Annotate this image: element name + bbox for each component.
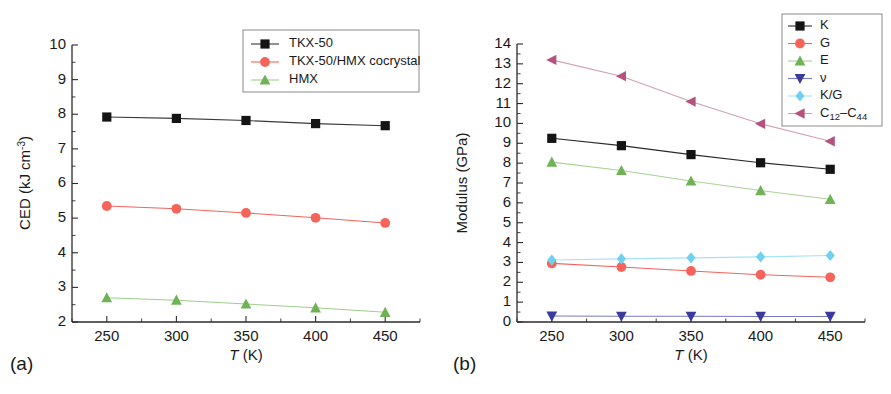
y-axis-title: Modulus (GPa) — [453, 133, 470, 234]
series- — [546, 311, 835, 322]
data-point — [380, 218, 390, 228]
data-point — [756, 270, 766, 280]
series-KG — [547, 250, 835, 266]
y-tick-label: 10 — [494, 113, 511, 130]
x-axis-title: T (K) — [229, 346, 262, 363]
y-tick-label: 7 — [58, 139, 66, 156]
y-tick-label: 3 — [58, 277, 66, 294]
data-point — [826, 165, 835, 174]
x-tick-label: 400 — [303, 327, 328, 344]
y-tick-label: 13 — [494, 54, 511, 71]
series-HMX — [101, 292, 390, 317]
data-point — [546, 157, 557, 167]
x-tick-label: 250 — [539, 327, 564, 344]
x-tick-label: 450 — [373, 327, 398, 344]
x-tick-label: 300 — [164, 327, 189, 344]
y-tick-label: 4 — [503, 233, 511, 250]
y-tick-label: 5 — [58, 208, 66, 225]
panel-label: (a) — [10, 353, 33, 374]
legend-b: KGEνK/GC12–C44 — [782, 14, 882, 126]
y-tick-label: 11 — [495, 94, 511, 111]
legend-label: E — [820, 52, 829, 67]
data-point — [172, 114, 181, 123]
data-point — [686, 266, 696, 276]
x-tick-label: 350 — [678, 327, 703, 344]
y-tick-label: 1 — [503, 292, 511, 309]
y-tick-label: 7 — [503, 173, 511, 190]
legend-label: ν — [820, 70, 827, 85]
y-tick-label: 9 — [58, 70, 66, 87]
data-point — [241, 208, 251, 218]
x-tick-label: 300 — [609, 327, 634, 344]
legend-label: HMX — [289, 71, 318, 86]
chart-b-svg: 01234567891011121314250300350400450Modul… — [445, 0, 891, 394]
data-point — [381, 121, 390, 130]
data-point — [755, 119, 765, 129]
series-E — [546, 157, 835, 204]
panel-a: 2345678910250300350400450CED (kJ cm-3)T … — [0, 0, 446, 394]
data-point — [685, 96, 695, 106]
y-axis-title-group: CED (kJ cm-3) — [16, 136, 33, 230]
data-point — [756, 251, 765, 262]
panel-label: (b) — [453, 353, 476, 374]
data-point — [546, 55, 556, 65]
y-tick-label: 6 — [503, 193, 511, 210]
data-point — [825, 272, 835, 282]
y-tick-label: 8 — [58, 104, 66, 121]
x-tick-label: 250 — [94, 327, 119, 344]
series-K — [547, 134, 835, 174]
y-tick-label: 2 — [503, 272, 511, 289]
series-TKX50HMXcocrystal — [102, 201, 390, 228]
data-point — [311, 213, 321, 223]
data-point — [686, 150, 695, 159]
x-tick-label: 400 — [748, 327, 773, 344]
x-axis-title: T (K) — [674, 346, 707, 363]
legend-marker — [795, 39, 805, 49]
legend-label: TKX-50/HMX cocrystal — [289, 53, 421, 68]
data-point — [101, 292, 112, 302]
y-axis-title: CED (kJ cm-3) — [16, 136, 33, 230]
data-point — [547, 134, 556, 143]
data-point — [617, 253, 626, 264]
data-point — [617, 141, 626, 150]
y-tick-label: 3 — [503, 252, 511, 269]
x-tick-label: 350 — [233, 327, 258, 344]
data-point — [241, 116, 250, 125]
y-tick-label: 14 — [494, 34, 511, 51]
data-point — [311, 119, 320, 128]
data-point — [826, 250, 835, 261]
y-tick-label: 10 — [49, 35, 66, 52]
legend-marker — [260, 57, 270, 67]
y-tick-label: 5 — [503, 213, 511, 230]
legend-label: G — [820, 35, 830, 50]
x-tick-label: 450 — [818, 327, 843, 344]
y-tick-label: 12 — [494, 74, 511, 91]
legend-label: K/G — [820, 87, 842, 102]
legend-label: K — [820, 17, 829, 32]
data-point — [172, 204, 182, 214]
chart-a-svg: 2345678910250300350400450CED (kJ cm-3)T … — [0, 0, 446, 394]
panel-b: 01234567891011121314250300350400450Modul… — [445, 0, 891, 394]
data-point — [616, 71, 626, 81]
data-point — [102, 112, 111, 121]
data-point — [756, 158, 765, 167]
y-tick-label: 8 — [503, 153, 511, 170]
legend-a: TKX-50TKX-50/HMX cocrystalHMX — [243, 30, 421, 92]
y-tick-label: 6 — [58, 173, 66, 190]
series-TKX50 — [102, 112, 390, 130]
y-tick-label: 9 — [503, 133, 511, 150]
legend-marker — [260, 39, 269, 48]
y-tick-label: 4 — [58, 243, 66, 260]
data-series-group — [101, 112, 390, 316]
data-point — [825, 136, 835, 146]
legend-label: TKX-50 — [289, 35, 333, 50]
y-axis-title-group: Modulus (GPa) — [453, 133, 470, 234]
y-tick-label: 2 — [58, 312, 66, 329]
data-point — [102, 201, 112, 211]
data-point — [686, 252, 695, 263]
legend-marker — [795, 21, 804, 30]
figure-container: 2345678910250300350400450CED (kJ cm-3)T … — [0, 0, 891, 394]
y-tick-label: 0 — [503, 312, 511, 329]
